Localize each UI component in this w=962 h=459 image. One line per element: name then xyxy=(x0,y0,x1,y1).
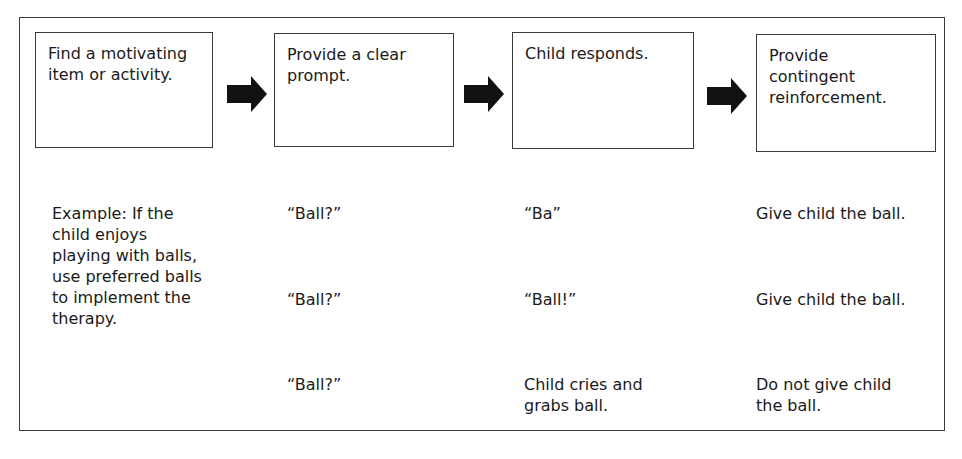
step-label: Provide a clear prompt. xyxy=(287,45,406,85)
response-cell: “Ball!” xyxy=(524,289,576,310)
step-box-reinforcement: Provide contingent reinforcement. xyxy=(756,34,936,152)
reinforcement-cell: Give child the ball. xyxy=(756,203,906,224)
reinforcement-cell: Do not give child the ball. xyxy=(756,374,891,416)
step-box-provide-prompt: Provide a clear prompt. xyxy=(274,33,454,147)
step-label: Child responds. xyxy=(525,44,649,63)
response-cell: “Ba” xyxy=(524,203,561,224)
prompt-cell: “Ball?” xyxy=(287,203,341,224)
right-arrow-icon xyxy=(227,76,267,112)
right-arrow-icon xyxy=(464,76,504,112)
step-box-find-motivator: Find a motivating item or activity. xyxy=(35,32,213,148)
reinforcement-cell: Give child the ball. xyxy=(756,289,906,310)
step-label: Find a motivating item or activity. xyxy=(48,44,187,84)
prompt-cell: “Ball?” xyxy=(287,374,341,395)
step-box-child-responds: Child responds. xyxy=(512,32,694,149)
step-label: Provide contingent reinforcement. xyxy=(769,46,887,107)
right-arrow-icon xyxy=(707,78,747,114)
response-cell: Child cries and grabs ball. xyxy=(524,374,643,416)
prompt-cell: “Ball?” xyxy=(287,289,341,310)
example-description: Example: If the child enjoys playing wit… xyxy=(52,203,232,329)
